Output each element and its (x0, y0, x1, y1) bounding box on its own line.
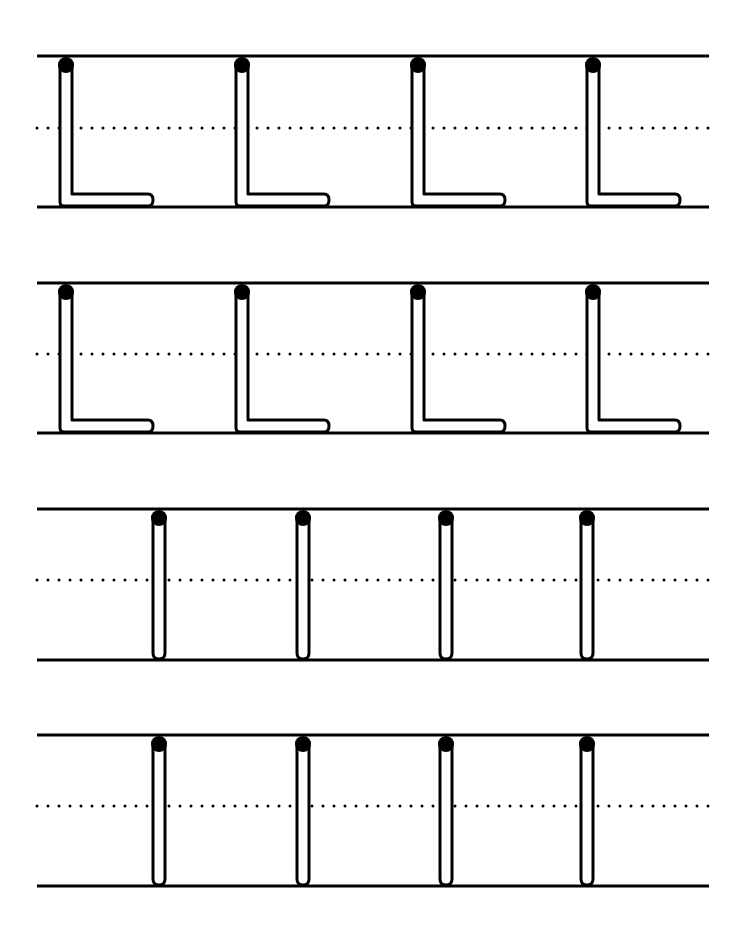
start-dot-icon (58, 284, 74, 300)
start-dot-icon (234, 57, 250, 73)
practice-row (37, 56, 709, 207)
start-dot-icon (151, 510, 167, 526)
start-dot-icon (234, 284, 250, 300)
practice-row (37, 283, 709, 433)
letter-outline (236, 289, 329, 432)
start-dot-icon (585, 284, 601, 300)
letter-outline (60, 62, 153, 206)
letter-outline (587, 62, 680, 206)
tracing-letter-l (438, 736, 454, 885)
practice-row (37, 509, 709, 660)
handwriting-worksheet (0, 0, 748, 936)
tracing-letter-l (579, 510, 595, 659)
tracing-letter-l (151, 510, 167, 659)
tracing-letter-L (234, 57, 329, 206)
tracing-letter-l (438, 510, 454, 659)
tracing-letter-l (579, 736, 595, 885)
letter-outline (581, 741, 593, 885)
start-dot-icon (579, 510, 595, 526)
tracing-letter-L (58, 57, 153, 206)
letter-outline (412, 289, 505, 432)
start-dot-icon (410, 284, 426, 300)
start-dot-icon (295, 510, 311, 526)
worksheet-canvas (0, 0, 748, 936)
letter-outline (440, 741, 452, 885)
start-dot-icon (585, 57, 601, 73)
start-dot-icon (151, 736, 167, 752)
start-dot-icon (295, 736, 311, 752)
letter-outline (297, 515, 309, 659)
letter-outline (412, 62, 505, 206)
letter-outline (153, 741, 165, 885)
tracing-letter-l (151, 736, 167, 885)
tracing-letter-L (585, 57, 680, 206)
letter-outline (297, 741, 309, 885)
tracing-letter-L (410, 57, 505, 206)
letter-outline (587, 289, 680, 432)
tracing-letter-l (295, 510, 311, 659)
start-dot-icon (438, 510, 454, 526)
tracing-letter-l (295, 736, 311, 885)
start-dot-icon (438, 736, 454, 752)
practice-row (37, 735, 709, 886)
start-dot-icon (58, 57, 74, 73)
letter-outline (153, 515, 165, 659)
letter-outline (60, 289, 153, 432)
start-dot-icon (410, 57, 426, 73)
letter-outline (440, 515, 452, 659)
start-dot-icon (579, 736, 595, 752)
letter-outline (581, 515, 593, 659)
tracing-letter-L (58, 284, 153, 432)
tracing-letter-L (585, 284, 680, 432)
tracing-letter-L (410, 284, 505, 432)
tracing-letter-L (234, 284, 329, 432)
letter-outline (236, 62, 329, 206)
